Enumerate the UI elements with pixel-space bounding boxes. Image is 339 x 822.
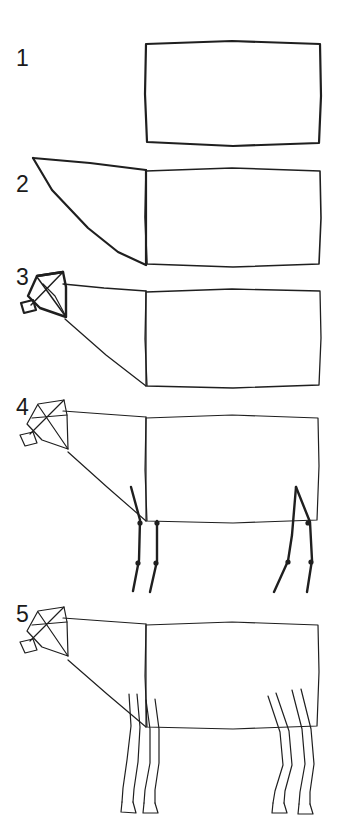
step-number-5: 5 [16, 601, 29, 627]
head-cross-line [32, 415, 67, 418]
foreleg-front-fetlock [135, 560, 140, 565]
hindleg-right-outer [292, 690, 305, 804]
neck-top-line [63, 284, 146, 291]
step-number-2: 2 [16, 171, 29, 197]
hindleg-hock [305, 520, 310, 525]
neck-wedge-underside [33, 158, 146, 265]
hindleg-right-hoof [298, 804, 313, 814]
step-number-1: 1 [16, 45, 29, 71]
neck-bottom-line [65, 319, 146, 386]
tutorial-canvas: 12345 [0, 0, 339, 822]
muzzle-box [21, 300, 36, 313]
body-rectangle [145, 289, 321, 388]
neck-bottom-line [68, 660, 146, 727]
hindleg-left-outer [268, 696, 283, 803]
head-cross-line [32, 622, 67, 625]
hindleg-front-bone [274, 487, 296, 592]
foreleg-rear-knee [154, 520, 159, 525]
neck-top-line [63, 411, 146, 417]
foreleg-front-knee [137, 520, 142, 525]
body-rectangle [145, 41, 321, 146]
muzzle-box [20, 639, 37, 653]
hindleg-fetlock [308, 559, 313, 564]
step-2: 2 [16, 158, 321, 267]
foreleg-right-hoof [143, 803, 158, 813]
hindleg-left-hoof [272, 803, 287, 813]
muzzle-box [20, 432, 37, 446]
foreleg-rear-fetlock [153, 560, 158, 565]
foreleg-right-inner [155, 699, 159, 803]
head-box-outline [27, 400, 68, 449]
foreleg-front-bone [131, 487, 140, 591]
step-number-4: 4 [16, 394, 29, 420]
body-rectangle [145, 168, 321, 267]
step-5: 5 [16, 601, 319, 814]
body-rectangle [145, 415, 319, 523]
hindleg-left-inner [276, 693, 292, 803]
hindleg-rear-bone [296, 487, 312, 592]
neck-top-line [63, 618, 146, 624]
neck-wedge-top [33, 158, 146, 170]
hindleg-front-fetlock [285, 559, 290, 564]
neck-bottom-line [68, 452, 146, 521]
foreleg-rear-bone [150, 521, 157, 592]
foreleg-left-hoof [121, 802, 136, 813]
head-box-outline [27, 607, 68, 656]
step-3: 3 [16, 264, 321, 388]
step-1: 1 [16, 41, 321, 146]
step-number-3: 3 [16, 264, 29, 290]
step-4: 4 [16, 394, 319, 592]
body-outline [145, 622, 319, 729]
foreleg-left-inner [133, 694, 140, 802]
